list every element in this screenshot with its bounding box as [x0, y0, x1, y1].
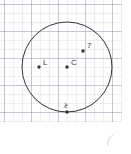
point-marker-7: [81, 49, 84, 52]
point-marker-c: [65, 65, 68, 68]
point-label-c: C: [71, 59, 77, 67]
diagram-canvas: L C 7 २: [0, 0, 131, 154]
point-label-l: L: [43, 59, 47, 67]
point-marker-bottom: [65, 110, 68, 113]
figure-drawing: [0, 0, 131, 154]
point-label-7: 7: [87, 42, 91, 50]
stray-pencil-mark: [104, 133, 118, 149]
point-marker-l: [37, 65, 40, 68]
point-label-bottom: २: [64, 101, 68, 109]
